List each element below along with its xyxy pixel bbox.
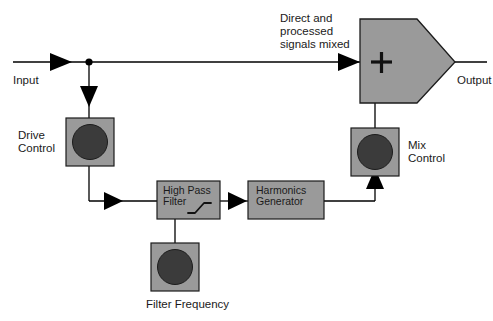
mix-control-label-line1: Mix	[408, 139, 426, 151]
filter-frequency-knob[interactable]	[151, 243, 199, 291]
high-pass-filter-label-line2: Filter	[163, 195, 187, 207]
wire-drive-to-filter	[89, 166, 157, 201]
diagram-canvas: High Pass Filter Harmonics Generator Inp…	[0, 0, 493, 321]
direct-mixed-label-line2: processed	[280, 25, 333, 37]
high-pass-filter-block[interactable]: High Pass Filter	[157, 181, 220, 219]
drive-control-label-line2: Control	[18, 142, 55, 154]
drive-control-label-line1: Drive	[18, 129, 45, 141]
signal-flow-diagram: High Pass Filter Harmonics Generator Inp…	[0, 0, 493, 321]
harmonics-generator-block[interactable]: Harmonics Generator	[248, 181, 324, 219]
arrow-into-mixer	[338, 53, 360, 71]
input-label: Input	[13, 74, 39, 86]
drive-control-knob[interactable]	[66, 118, 114, 166]
arrow-to-drive-control	[80, 86, 98, 107]
filter-frequency-label: Filter Frequency	[146, 298, 229, 310]
arrow-to-harmonics-generator	[228, 192, 247, 210]
direct-mixed-label-line1: Direct and	[280, 12, 332, 24]
output-label: Output	[457, 74, 492, 86]
arrow-input	[50, 53, 72, 71]
direct-mixed-label-line3: signals mixed	[280, 38, 350, 50]
harmonics-generator-label-line2: Generator	[256, 195, 304, 207]
mix-control-label-line2: Control	[408, 152, 445, 164]
mix-control-knob[interactable]	[351, 128, 399, 176]
arrow-to-high-pass-filter	[104, 192, 123, 210]
